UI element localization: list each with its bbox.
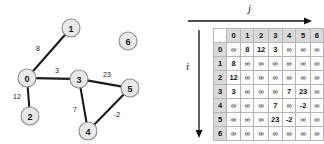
matrix-cell: ∞: [241, 113, 254, 127]
graph-node[interactable]: 3: [70, 70, 88, 88]
node-label: 0: [24, 74, 29, 84]
node-label: 3: [76, 75, 81, 85]
matrix-cell: ∞: [310, 43, 323, 57]
matrix-column-header: 4: [282, 29, 296, 43]
edge-weight-label: 7: [73, 106, 77, 113]
adjacency-matrix-panel: j i 01234560∞8123∞∞∞18∞∞∞∞∞∞212∞∞∞∞∞∞33∞…: [162, 0, 324, 144]
matrix-cell: ∞: [296, 43, 310, 57]
matrix-cell: 23: [268, 113, 282, 127]
weighted-graph-panel: 0123456 8312237-2: [0, 0, 162, 144]
edge-weight-label: 23: [103, 71, 111, 78]
matrix-row: 4∞∞∞7∞-2∞: [214, 99, 324, 113]
edge-weight-label: -2: [114, 111, 120, 118]
matrix-cell: ∞: [296, 127, 310, 141]
matrix-column-header: 0: [227, 29, 241, 43]
matrix-row: 212∞∞∞∞∞∞: [214, 71, 324, 85]
matrix-cell: ∞: [310, 71, 323, 85]
matrix-cell: ∞: [310, 85, 323, 99]
matrix-cell: ∞: [241, 99, 254, 113]
matrix-cell: 3: [227, 85, 241, 99]
matrix-column-header: 1: [241, 29, 254, 43]
matrix-cell: ∞: [310, 127, 323, 141]
node-label: 4: [85, 127, 90, 137]
graph-node[interactable]: 2: [21, 107, 39, 125]
matrix-cell: ∞: [254, 99, 268, 113]
matrix-cell: 23: [296, 85, 310, 99]
matrix-cell: ∞: [310, 99, 323, 113]
edge-weight-label: 8: [36, 45, 40, 52]
graph-svg: 0123456 8312237-2: [0, 0, 162, 144]
matrix-row-header: 2: [214, 71, 227, 85]
matrix-cell: 7: [282, 85, 296, 99]
axis-label-j: j: [248, 2, 251, 14]
graph-node[interactable]: 4: [79, 122, 97, 140]
matrix-row: 6∞∞∞∞∞∞∞: [214, 127, 324, 141]
graph-edge: [87, 80, 122, 86]
matrix-cell: 8: [241, 43, 254, 57]
graph-node[interactable]: 1: [62, 19, 80, 37]
adjacency-matrix-table: 01234560∞8123∞∞∞18∞∞∞∞∞∞212∞∞∞∞∞∞33∞∞∞72…: [213, 28, 324, 141]
matrix-row-header: 6: [214, 127, 227, 141]
matrix-cell: ∞: [296, 113, 310, 127]
matrix-row-header: 5: [214, 113, 227, 127]
axis-label-i: i: [186, 60, 189, 72]
matrix-cell: ∞: [282, 71, 296, 85]
graph-node[interactable]: 5: [121, 79, 139, 97]
matrix-cell: ∞: [227, 43, 241, 57]
axis-arrow-i-icon: [194, 30, 204, 140]
matrix-column-header: 2: [254, 29, 268, 43]
matrix-cell: ∞: [241, 57, 254, 71]
matrix-cell: ∞: [254, 127, 268, 141]
edge-weight-label: 3: [55, 67, 59, 74]
matrix-cell: ∞: [296, 71, 310, 85]
graph-node[interactable]: 6: [119, 32, 137, 50]
matrix-cell: ∞: [227, 99, 241, 113]
matrix-column-header: 3: [268, 29, 282, 43]
matrix-cell: ∞: [268, 85, 282, 99]
matrix-cell: 3: [268, 43, 282, 57]
matrix-cell: ∞: [254, 113, 268, 127]
matrix-cell: ∞: [282, 43, 296, 57]
matrix-row: 5∞∞∞23-2∞∞: [214, 113, 324, 127]
matrix-cell: ∞: [296, 57, 310, 71]
node-label: 2: [27, 112, 32, 122]
matrix-cell: ∞: [268, 57, 282, 71]
matrix-row-header: 3: [214, 85, 227, 99]
matrix-cell: ∞: [282, 57, 296, 71]
matrix-row-header: 1: [214, 57, 227, 71]
matrix-cell: 12: [254, 43, 268, 57]
graph-node[interactable]: 0: [18, 69, 36, 87]
matrix-cell: ∞: [282, 127, 296, 141]
matrix-cell: -2: [282, 113, 296, 127]
graph-edge: [28, 86, 30, 108]
graph-edge: [32, 34, 65, 72]
matrix-cell: ∞: [227, 127, 241, 141]
matrix-column-header: 5: [296, 29, 310, 43]
matrix-cell: -2: [296, 99, 310, 113]
matrix-row: 33∞∞∞723∞: [214, 85, 324, 99]
matrix-cell: ∞: [268, 71, 282, 85]
matrix-cell: ∞: [254, 57, 268, 71]
matrix-cell: 7: [268, 99, 282, 113]
matrix-cell: 12: [227, 71, 241, 85]
matrix-header-row: 0123456: [214, 29, 324, 43]
matrix-row: 18∞∞∞∞∞∞: [214, 57, 324, 71]
matrix-corner-cell: [214, 29, 227, 43]
matrix-body: 01234560∞8123∞∞∞18∞∞∞∞∞∞212∞∞∞∞∞∞33∞∞∞72…: [214, 29, 324, 141]
matrix-cell: ∞: [241, 71, 254, 85]
graph-edge: [94, 94, 125, 126]
node-layer: 0123456: [18, 19, 139, 140]
diagram-root: 0123456 8312237-2 j i 01234560∞8123∞∞∞18…: [0, 0, 324, 144]
matrix-cell: ∞: [241, 127, 254, 141]
matrix-cell: ∞: [310, 57, 323, 71]
graph-edge: [35, 78, 71, 79]
matrix-cell: ∞: [254, 71, 268, 85]
matrix-row: 0∞8123∞∞∞: [214, 43, 324, 57]
matrix-cell: 8: [227, 57, 241, 71]
matrix-row-header: 0: [214, 43, 227, 57]
graph-edge: [80, 87, 86, 123]
node-label: 5: [127, 84, 132, 94]
node-label: 6: [125, 37, 130, 47]
axis-arrow-j-icon: [188, 16, 314, 26]
matrix-cell: ∞: [282, 99, 296, 113]
